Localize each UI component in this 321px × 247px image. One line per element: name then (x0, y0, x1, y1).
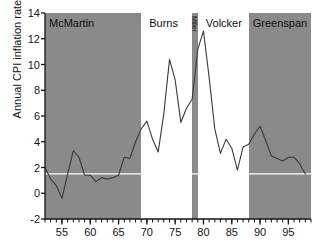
x-tick-label: 95 (276, 227, 300, 238)
y-tick-label: 0 (16, 188, 40, 198)
x-tick-label: 70 (135, 227, 159, 238)
x-tick-label: 90 (248, 227, 272, 238)
x-tick-label: 85 (220, 227, 244, 238)
inflation-line-series (45, 13, 311, 219)
x-tick-label: 55 (50, 227, 74, 238)
y-axis-label: Annual CPI inflation rate (%) (11, 0, 25, 139)
y-tick-label: -2 (16, 214, 40, 224)
band-label-miller: Miller (191, 16, 198, 32)
x-tick-label: 60 (78, 227, 102, 238)
band-label-volcker: Volcker (206, 17, 242, 29)
band-label-mcmartin: McMartin (49, 17, 94, 29)
x-tick-label: 75 (163, 227, 187, 238)
plot-area: McMartinMillerGreenspanBurnsVolcker (45, 13, 311, 219)
band-label-burns: Burns (149, 17, 178, 29)
cpi-inflation-chart: Annual CPI inflation rate (%) McMartinMi… (0, 0, 321, 247)
x-tick-label: 80 (191, 227, 215, 238)
y-tick-label: 2 (16, 163, 40, 173)
inflation-polyline (45, 31, 305, 198)
band-label-greenspan: Greenspan (253, 17, 307, 29)
x-tick-label: 65 (107, 227, 131, 238)
